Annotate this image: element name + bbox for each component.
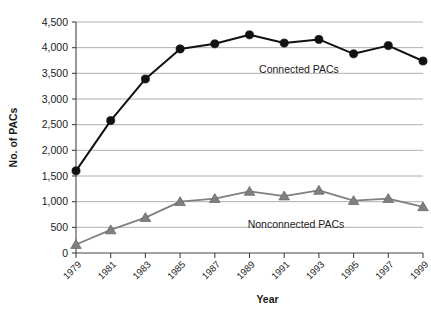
y-tick-label: 2,500: [42, 118, 68, 130]
data-point: [419, 57, 427, 65]
x-axis-ticks: 1979198119831985198719891991199319951997…: [61, 253, 431, 281]
data-point: [71, 240, 82, 249]
x-tick-label: 1985: [165, 259, 188, 282]
y-axis-title: No. of PACs: [7, 107, 19, 167]
y-tick-label: 1,000: [42, 195, 68, 207]
data-point: [244, 186, 255, 195]
x-tick-label: 1983: [130, 259, 153, 282]
x-tick-label: 1997: [373, 259, 396, 282]
y-tick-label: 0: [62, 247, 68, 259]
data-point: [72, 167, 80, 175]
x-tick-label: 1991: [269, 259, 292, 282]
y-tick-label: 4,500: [42, 16, 68, 28]
data-point: [245, 31, 253, 39]
y-tick-label: 3,500: [42, 67, 68, 79]
y-axis-ticks: 05001,0001,5002,0002,5003,0003,5004,0004…: [42, 16, 76, 259]
x-axis-title: Year: [256, 293, 278, 305]
y-tick-label: 500: [50, 221, 68, 233]
x-tick-label: 1987: [199, 259, 222, 282]
series-connected: [72, 31, 427, 175]
chart-container: 05001,0001,5002,0002,5003,0003,5004,0004…: [0, 0, 431, 314]
gridlines: [76, 22, 423, 227]
x-tick-label: 1995: [338, 259, 361, 282]
y-tick-label: 4,000: [42, 41, 68, 53]
series-annotation: Connected PACs: [259, 63, 339, 75]
x-tick-label: 1993: [304, 259, 327, 282]
data-point: [384, 42, 392, 50]
data-point: [280, 39, 288, 47]
series-nonconnected: [71, 185, 429, 248]
data-point: [176, 45, 184, 53]
series-annotation: Nonconnected PACs: [248, 218, 345, 230]
data-point: [350, 50, 358, 58]
y-tick-label: 3,000: [42, 93, 68, 105]
y-tick-label: 1,500: [42, 170, 68, 182]
x-tick-label: 1981: [95, 259, 118, 282]
x-tick-label: 1979: [61, 259, 84, 282]
data-point: [107, 116, 115, 124]
data-point: [211, 40, 219, 48]
y-tick-label: 2,000: [42, 144, 68, 156]
x-tick-label: 1989: [234, 259, 257, 282]
pac-growth-line-chart: 05001,0001,5002,0002,5003,0003,5004,0004…: [0, 0, 431, 314]
data-point: [140, 213, 151, 222]
data-point: [315, 35, 323, 43]
x-tick-label: 1999: [408, 259, 431, 282]
data-point: [141, 75, 149, 83]
data-point: [314, 185, 325, 194]
